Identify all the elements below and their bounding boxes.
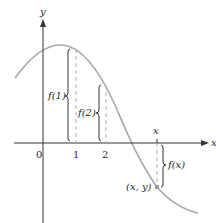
origin-label: 0 (36, 149, 42, 160)
tick-label-2: 2 (102, 149, 108, 160)
tick-label-x: x (153, 125, 159, 136)
function-graph: x y 0 1 f(1) 2 f(2) x f(x) (x, y) (0, 0, 216, 223)
point-label: (x, y) (126, 181, 152, 192)
y-axis-arrow-icon (40, 19, 46, 27)
label-fx: f(x) (167, 159, 185, 170)
point-marker (155, 185, 159, 189)
label-f1: f(1) (47, 90, 66, 101)
brace-f2 (96, 85, 101, 141)
tick-label-1: 1 (73, 149, 79, 160)
y-axis-label: y (39, 6, 46, 17)
brace-fx (161, 145, 166, 187)
x-axis-arrow-icon (201, 140, 209, 146)
label-f2: f(2) (77, 107, 96, 118)
x-axis-label: x (211, 137, 216, 148)
